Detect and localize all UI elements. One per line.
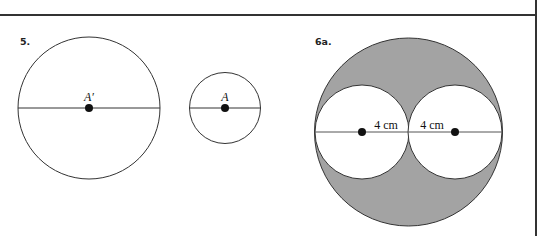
figures-canvas: A′ A 4 cm 4 cm (0, 0, 557, 236)
shaded-circle-figure: 4 cm 4 cm (315, 38, 503, 226)
center-label-a: A (220, 90, 229, 104)
radius-label-right: 4 cm (420, 118, 444, 132)
radius-label-left: 4 cm (374, 118, 398, 132)
center-label-a-prime: A′ (83, 90, 94, 104)
center-point-a (221, 104, 229, 112)
circle-a-figure: A (190, 73, 261, 144)
inner-left-center-point (358, 128, 366, 136)
circle-a-prime-figure: A′ (18, 37, 160, 179)
inner-right-center-point (451, 128, 459, 136)
center-point-a-prime (85, 104, 93, 112)
